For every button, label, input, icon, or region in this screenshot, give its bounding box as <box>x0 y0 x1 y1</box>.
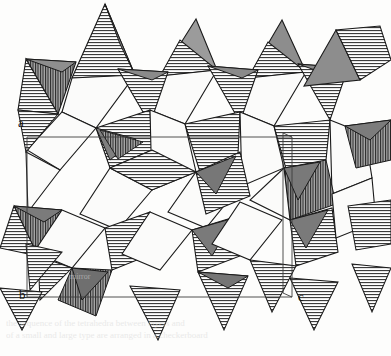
axis-label-c: c <box>298 290 304 303</box>
axis-label-a: a <box>18 116 24 129</box>
axis-label-b: b <box>19 288 26 301</box>
figure-canvas: the sequence of the tetrahedra between l… <box>0 0 391 356</box>
tetrahedral-framework-diagram <box>0 0 391 356</box>
